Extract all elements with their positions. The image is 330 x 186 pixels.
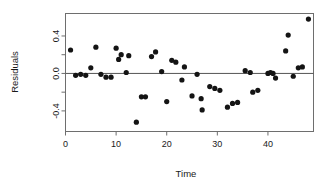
data-point (134, 120, 139, 125)
data-point (153, 49, 158, 54)
y-axis-ticks (62, 36, 66, 111)
data-point (286, 32, 291, 37)
data-point (200, 107, 205, 112)
data-point (143, 94, 148, 99)
x-tick-label: 10 (111, 139, 121, 149)
data-point (73, 73, 78, 78)
data-point (194, 72, 199, 77)
data-points (68, 17, 311, 125)
data-point (83, 73, 88, 78)
data-point (126, 53, 131, 58)
data-point (98, 72, 103, 77)
data-point (103, 75, 108, 80)
data-point (255, 88, 260, 93)
data-point (78, 72, 83, 77)
data-point (164, 99, 169, 104)
y-tick-label: -0.4 (51, 103, 61, 119)
data-point (182, 64, 187, 69)
plot-canvas: 010203040 -0.40.00.4 Time Residuals (0, 0, 330, 186)
data-point (114, 46, 119, 51)
data-point (124, 70, 129, 75)
y-tick-label: 0.4 (51, 30, 61, 43)
data-point (230, 101, 235, 106)
data-point (179, 77, 184, 82)
data-point (306, 17, 311, 22)
x-axis-ticks (66, 132, 268, 136)
data-point (212, 86, 217, 91)
y-axis-tick-labels: -0.40.00.4 (51, 30, 61, 119)
data-point (243, 68, 248, 73)
data-point (108, 75, 113, 80)
data-point (300, 64, 305, 69)
x-axis-label: Time (176, 168, 197, 179)
data-point (207, 84, 212, 89)
data-point (273, 76, 278, 81)
data-point (250, 90, 255, 95)
data-point (199, 96, 204, 101)
x-tick-label: 0 (63, 139, 68, 149)
data-point (88, 65, 93, 70)
x-axis-tick-labels: 010203040 (63, 139, 273, 149)
data-point (270, 71, 275, 76)
data-point (119, 52, 124, 57)
data-point (225, 105, 230, 110)
y-tick-label: 0.0 (51, 67, 61, 80)
data-point (116, 57, 121, 62)
data-point (248, 70, 253, 75)
x-tick-label: 20 (162, 139, 172, 149)
data-point (235, 100, 240, 105)
data-point (283, 48, 288, 53)
data-point (159, 69, 164, 74)
data-point (217, 88, 222, 93)
data-point (149, 54, 154, 59)
data-point (173, 60, 178, 65)
data-point (93, 45, 98, 50)
residuals-scatter-plot: 010203040 -0.40.00.4 Time Residuals (0, 0, 330, 186)
y-axis-label: Residuals (9, 51, 20, 93)
data-point (68, 47, 73, 52)
data-point (189, 93, 194, 98)
x-tick-label: 30 (212, 139, 222, 149)
x-tick-label: 40 (263, 139, 273, 149)
data-point (291, 74, 296, 79)
